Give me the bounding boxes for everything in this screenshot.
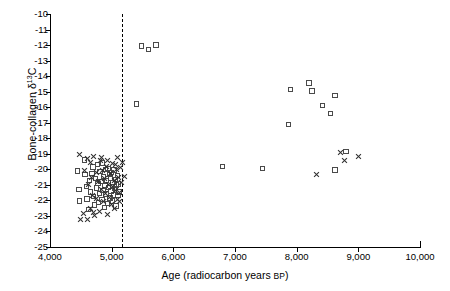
data-point-cross bbox=[90, 153, 97, 160]
data-point-cross bbox=[107, 170, 114, 177]
data-point-cross bbox=[96, 208, 103, 215]
data-point-cross bbox=[109, 160, 116, 167]
data-point-square bbox=[97, 169, 102, 174]
data-point-square bbox=[113, 177, 118, 182]
data-point-cross bbox=[99, 167, 106, 174]
data-point-cross bbox=[77, 216, 84, 223]
data-point-square bbox=[100, 160, 105, 165]
data-point-square bbox=[75, 168, 80, 173]
data-point-square bbox=[107, 195, 112, 200]
data-point-cross bbox=[108, 201, 115, 208]
data-point-square bbox=[92, 202, 97, 207]
data-point-square bbox=[108, 188, 113, 193]
data-point-square bbox=[107, 172, 112, 177]
y-axis-tick-label: -24 bbox=[34, 226, 48, 236]
data-point-square bbox=[90, 164, 95, 169]
data-point-cross bbox=[91, 212, 98, 219]
y-axis-tick-label: -12 bbox=[34, 40, 48, 50]
x-axis-tick-label: 7,000 bbox=[205, 252, 265, 262]
data-point-cross bbox=[100, 198, 107, 205]
data-point-cross bbox=[95, 178, 102, 185]
data-point-square bbox=[82, 172, 87, 177]
x-axis-tick-label: 6,000 bbox=[143, 252, 203, 262]
data-point-cross bbox=[109, 183, 116, 190]
data-point-cross bbox=[87, 205, 94, 212]
data-point-cross bbox=[111, 177, 118, 184]
data-point-cross bbox=[81, 167, 88, 174]
x-axis-tick-label: 9,000 bbox=[328, 252, 388, 262]
y-axis-tick-label: -13 bbox=[34, 56, 48, 66]
x-axis-tick bbox=[420, 241, 421, 248]
y-axis-tick-label: -21 bbox=[34, 180, 48, 190]
data-point-square bbox=[110, 180, 115, 185]
data-point-square bbox=[116, 181, 121, 186]
data-point-square bbox=[306, 80, 311, 85]
y-axis-tick-label: -23 bbox=[34, 211, 48, 221]
x-axis-title-end: ) bbox=[285, 269, 289, 281]
data-point-square bbox=[332, 93, 337, 98]
data-point-cross bbox=[112, 187, 119, 194]
data-point-square bbox=[93, 176, 98, 181]
data-point-square bbox=[76, 187, 81, 192]
data-point-square bbox=[98, 179, 103, 184]
y-axis-tick-label: -16 bbox=[34, 102, 48, 112]
data-point-cross bbox=[114, 154, 121, 161]
data-point-square bbox=[114, 182, 119, 187]
data-point-square bbox=[112, 186, 117, 191]
data-point-square bbox=[95, 162, 100, 167]
data-point-square bbox=[134, 101, 139, 106]
data-point-cross bbox=[113, 166, 120, 173]
y-axis-tick-label: -18 bbox=[34, 133, 48, 143]
data-point-cross bbox=[93, 169, 100, 176]
y-axis-tick-label: -17 bbox=[34, 118, 48, 128]
data-point-cross bbox=[117, 164, 124, 171]
data-point-cross bbox=[85, 181, 92, 188]
data-point-cross bbox=[337, 149, 344, 156]
data-point-square bbox=[106, 185, 111, 190]
data-point-cross bbox=[89, 192, 96, 199]
y-axis-line bbox=[50, 14, 51, 247]
data-point-square bbox=[84, 196, 89, 201]
y-axis-tick-label: -20 bbox=[34, 164, 48, 174]
data-point-square bbox=[102, 205, 107, 210]
data-point-square bbox=[95, 181, 100, 186]
plot-area: -10-11-12-13-14-15-16-17-18-19-20-21-22-… bbox=[50, 14, 420, 247]
data-point-cross bbox=[84, 216, 91, 223]
data-point-square bbox=[343, 149, 348, 154]
data-point-square bbox=[103, 191, 108, 196]
dashed-divider-line bbox=[122, 14, 123, 247]
x-axis-tick-label: 10,000 bbox=[390, 252, 450, 262]
data-point-cross bbox=[104, 157, 111, 164]
data-point-square bbox=[220, 164, 225, 169]
data-point-square bbox=[103, 167, 108, 172]
data-point-square bbox=[96, 200, 101, 205]
data-point-square bbox=[115, 193, 120, 198]
data-point-square bbox=[115, 173, 120, 178]
data-point-square bbox=[108, 175, 113, 180]
data-point-square bbox=[111, 167, 116, 172]
data-point-cross bbox=[105, 181, 112, 188]
data-point-cross bbox=[112, 161, 119, 168]
data-point-cross bbox=[88, 174, 95, 181]
x-axis-tick-label: 5,000 bbox=[82, 252, 142, 262]
data-point-square bbox=[116, 189, 121, 194]
y-axis-tick-label: -11 bbox=[35, 25, 48, 35]
data-point-square bbox=[260, 166, 265, 171]
data-point-cross bbox=[97, 157, 104, 164]
data-point-square bbox=[87, 178, 92, 183]
data-point-square bbox=[91, 194, 96, 199]
data-point-square bbox=[101, 174, 106, 179]
data-point-square bbox=[286, 122, 291, 127]
data-point-square bbox=[86, 207, 91, 212]
data-point-square bbox=[320, 103, 325, 108]
data-point-cross bbox=[313, 171, 320, 178]
data-point-cross bbox=[341, 157, 348, 164]
y-axis-tick-label: -14 bbox=[34, 71, 48, 81]
y-axis-tick-label: -15 bbox=[34, 87, 48, 97]
data-point-square bbox=[328, 111, 333, 116]
data-point-cross bbox=[115, 174, 122, 181]
data-point-square bbox=[153, 42, 158, 47]
data-point-cross bbox=[103, 163, 110, 170]
data-point-square bbox=[102, 183, 107, 188]
data-point-square bbox=[113, 203, 118, 208]
